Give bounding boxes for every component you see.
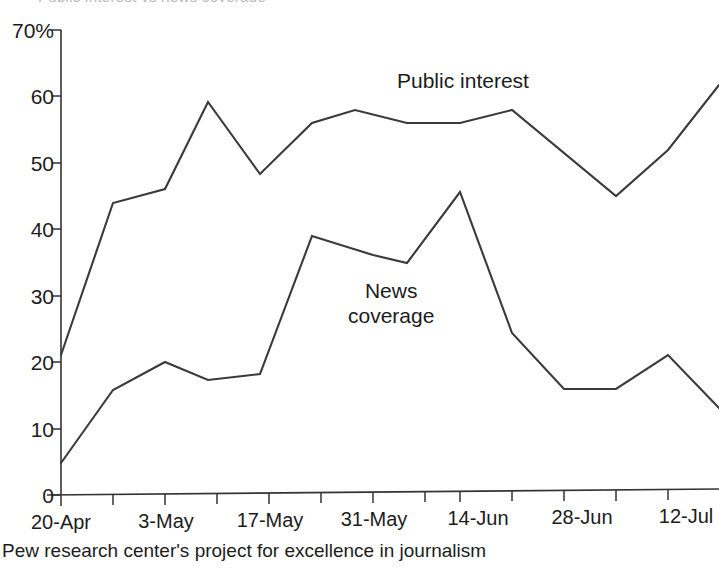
y-axis-labels: 70% 60 50 40 30 20 10 0	[0, 0, 54, 571]
source-note: Pew research center's project for excell…	[2, 540, 486, 562]
x-axis	[47, 489, 719, 495]
y-tick-label-60: 60	[2, 86, 54, 107]
y-tick-label-10: 10	[2, 419, 54, 440]
x-tick-label-31-may: 31-May	[341, 509, 408, 529]
x-tick-label-17-may: 17-May	[237, 510, 304, 530]
news-coverage-line-2: coverage	[348, 303, 434, 328]
news-coverage-line-1: News	[348, 278, 434, 303]
x-tick-label-28-jun: 28-Jun	[551, 507, 612, 527]
x-tick-label-12-jul: 12-Jul	[659, 506, 713, 526]
y-tick-label-0: 0	[2, 485, 54, 506]
y-tick-label-30: 30	[2, 286, 54, 307]
series-annotation-public-interest: Public interest	[397, 68, 529, 93]
y-tick-label-20: 20	[2, 352, 54, 373]
x-tick-label-3-may: 3-May	[138, 511, 194, 531]
series-annotation-news-coverage: News coverage	[348, 278, 434, 328]
y-tick-label-40: 40	[2, 219, 54, 240]
y-tick-label-50: 50	[2, 153, 54, 174]
chart-plot-area: 70% 60 50 40 30 20 10 0 20-Apr 3-May 17-…	[0, 0, 719, 571]
x-tick-label-14-jun: 14-Jun	[447, 508, 508, 528]
y-tick-label-70: 70%	[2, 20, 54, 41]
chart-page: Public interest vs news coverage	[0, 0, 719, 571]
x-tick-label-20-apr: 20-Apr	[31, 512, 91, 532]
